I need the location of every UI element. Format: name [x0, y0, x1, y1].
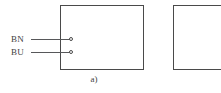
terminal-bn-icon — [69, 37, 73, 41]
figure-caption-a: a) — [91, 74, 98, 84]
terminal-bu-icon — [69, 50, 73, 54]
brown-wire-label: BN — [11, 34, 24, 44]
device-enclosure-b — [173, 5, 221, 70]
blue-wire-label: BU — [11, 47, 24, 57]
brown-wire-line — [31, 39, 71, 40]
wiring-diagram-figure: BN BU a) — [0, 0, 221, 93]
blue-wire-line — [31, 52, 71, 53]
